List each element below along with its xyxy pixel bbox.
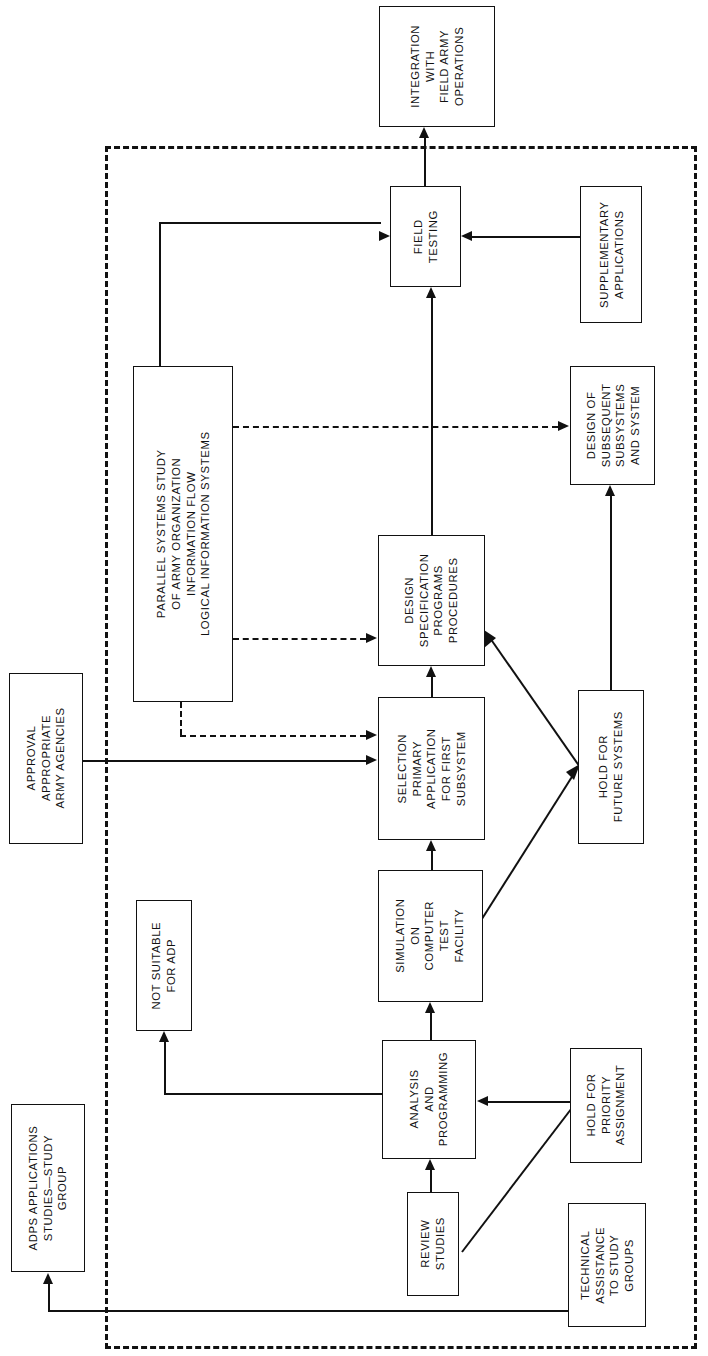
- node-supplementary-applications-label: SUPPLEMENTARY APPLICATIONS: [596, 201, 625, 308]
- edge-analysis-to-not-suitable-vertical: [164, 1042, 166, 1094]
- node-hold-for-future-systems[interactable]: HOLD FOR FUTURE SYSTEMS: [578, 690, 644, 844]
- arrowhead-design-spec-left: [366, 633, 377, 643]
- node-approval-army-agencies[interactable]: APPROVAL APPROPRIATE ARMY AGENCIES: [9, 673, 83, 844]
- node-simulation-computer-test-facility-label: SIMULATION ON COMPUTER TEST FACILITY: [394, 899, 467, 973]
- arrowhead-not-suitable: [159, 1031, 169, 1042]
- edge-hold-future-to-design-subsequent: [610, 495, 612, 690]
- node-technical-assistance-to-study-groups[interactable]: TECHNICAL ASSISTANCE TO STUDY GROUPS: [568, 1203, 646, 1327]
- node-field-testing-label: FIELD TESTING: [411, 210, 440, 263]
- arrowhead-analysis-right: [477, 1096, 488, 1106]
- node-design-specification[interactable]: DESIGN SPECIFICATION PROGRAMS PROCEDURES: [378, 535, 485, 666]
- arrowhead-selection-primary-dashed: [366, 730, 377, 740]
- node-hold-for-priority-assignment-label: HOLD FOR PRIORITY ASSIGNMENT: [584, 1065, 628, 1146]
- node-simulation-computer-test-facility[interactable]: SIMULATION ON COMPUTER TEST FACILITY: [378, 870, 483, 1002]
- arrowhead-simulation-bottom: [425, 1002, 435, 1013]
- edge-parallel-study-to-field-testing-horizontal: [159, 222, 381, 224]
- edge-hold-future-to-design-spec: [470, 580, 592, 780]
- node-selection-primary-application-label: SELECTION PRIMARY APPLICATION FOR FIRST …: [395, 728, 468, 808]
- edge-parallel-study-to-design-subsequent: [233, 426, 558, 428]
- arrowhead-selection-bottom: [426, 840, 436, 851]
- node-design-subsequent-subsystems-label: DESIGN OF SUBSEQUENT SUBSYSTEMS AND SYST…: [583, 384, 642, 468]
- node-parallel-systems-study-label: PARALLEL SYSTEMS STUDY OF ARMY ORGANIZAT…: [153, 432, 212, 637]
- node-approval-army-agencies-label: APPROVAL APPROPRIATE ARMY AGENCIES: [24, 708, 68, 809]
- node-analysis-and-programming-label: ANALYSIS AND PROGRAMMING: [407, 1052, 451, 1146]
- arrowhead-analysis-bottom: [425, 1159, 435, 1170]
- edge-parallel-study-to-selection-vertical: [180, 702, 182, 735]
- arrowhead-design-subsequent-bottom: [605, 485, 615, 496]
- edge-design-spec-to-field-testing: [431, 297, 433, 535]
- edge-parallel-study-to-selection-horizontal: [180, 735, 366, 737]
- arrowhead-design-spec-bottom: [426, 666, 436, 677]
- arrowhead-field-testing-left: [379, 231, 390, 241]
- node-selection-primary-application[interactable]: SELECTION PRIMARY APPLICATION FOR FIRST …: [378, 697, 485, 840]
- node-hold-for-priority-assignment[interactable]: HOLD FOR PRIORITY ASSIGNMENT: [570, 1048, 642, 1163]
- edge-analysis-to-not-suitable-horizontal: [164, 1093, 382, 1095]
- node-design-specification-label: DESIGN SPECIFICATION PROGRAMS PROCEDURES: [402, 554, 461, 648]
- edge-simulation-to-selection: [431, 850, 433, 870]
- node-technical-assistance-label: TECHNICAL ASSISTANCE TO STUDY GROUPS: [578, 1227, 637, 1304]
- node-integration-label: INTEGRATION WITH FIELD ARMY OPERATIONS: [408, 25, 467, 108]
- node-hold-for-future-systems-label: HOLD FOR FUTURE SYSTEMS: [596, 711, 625, 822]
- arrowhead-adps-study-group: [43, 1273, 53, 1284]
- edge-review-studies-to-analysis: [430, 1169, 432, 1193]
- node-integration[interactable]: INTEGRATION WITH FIELD ARMY OPERATIONS: [379, 6, 495, 127]
- flowchart-canvas: INTEGRATION WITH FIELD ARMY OPERATIONS F…: [0, 0, 708, 1356]
- arrowhead-field-testing-bottom: [426, 287, 436, 298]
- arrowhead-integration: [419, 127, 429, 138]
- arrowhead-selection-primary-solid: [366, 755, 377, 765]
- node-not-suitable-for-adp[interactable]: NOT SUITABLE FOR ADP: [136, 900, 192, 1031]
- node-not-suitable-for-adp-label: NOT SUITABLE FOR ADP: [149, 922, 178, 1010]
- edge-parallel-study-to-field-testing-vertical: [159, 222, 161, 368]
- node-adps-applications-study-group[interactable]: ADPS APPLICATIONS STUDIES—STUDY GROUP: [11, 1104, 85, 1272]
- arrowhead-field-testing-right: [461, 231, 472, 241]
- edge-parallel-study-to-design-spec: [233, 638, 366, 640]
- edge-supplementary-to-field-testing: [472, 236, 582, 238]
- node-analysis-and-programming[interactable]: ANALYSIS AND PROGRAMMING: [382, 1040, 476, 1159]
- edge-technical-assistance-to-adps-horizontal: [48, 1310, 570, 1312]
- edge-selection-to-design-spec: [431, 676, 433, 697]
- node-parallel-systems-study[interactable]: PARALLEL SYSTEMS STUDY OF ARMY ORGANIZAT…: [133, 366, 233, 702]
- node-field-testing[interactable]: FIELD TESTING: [390, 186, 461, 287]
- edge-approval-to-selection: [83, 760, 366, 762]
- node-review-studies-label: REVIEW STUDIES: [418, 1217, 447, 1270]
- edge-field-testing-to-integration: [424, 138, 426, 188]
- node-design-subsequent-subsystems[interactable]: DESIGN OF SUBSEQUENT SUBSYSTEMS AND SYST…: [570, 366, 655, 485]
- arrowhead-design-subsequent: [558, 421, 569, 431]
- edge-technical-assistance-to-adps-vertical: [48, 1284, 50, 1311]
- node-review-studies[interactable]: REVIEW STUDIES: [407, 1192, 459, 1296]
- node-supplementary-applications[interactable]: SUPPLEMENTARY APPLICATIONS: [580, 186, 642, 323]
- edge-analysis-to-simulation: [430, 1012, 432, 1040]
- node-adps-applications-study-group-label: ADPS APPLICATIONS STUDIES—STUDY GROUP: [26, 1126, 70, 1251]
